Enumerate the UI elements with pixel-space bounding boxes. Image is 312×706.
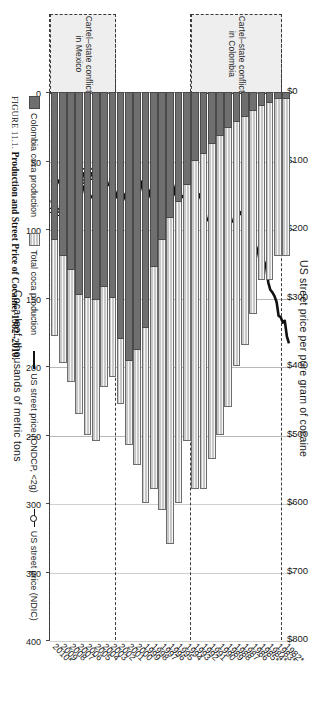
figure-rotation-stage: US street price per pure gram of cocaine… <box>0 0 312 706</box>
price-tick-label: $100 <box>287 154 308 165</box>
bar-total-coca-production <box>224 92 232 407</box>
bar-colombia-coca-production <box>109 92 117 298</box>
figure-caption-text: Production and Street Price of Cocaine, … <box>10 151 20 359</box>
bar-colombia-coca-production <box>249 92 257 111</box>
cartel-state-conflict-colombia: Cartel–state conflict in Colombia <box>191 14 282 94</box>
bar-row <box>100 92 108 640</box>
bar-colombia-coca-production <box>183 92 191 185</box>
bar-colombia-coca-production <box>241 92 249 117</box>
bar-total-coca-production <box>208 92 216 459</box>
event-label: Cartel–state conflict in Colombia <box>226 15 247 93</box>
legend-label: Total coca production <box>30 250 40 335</box>
legend-swatch-icon <box>29 233 40 246</box>
bar-colombia-coca-production <box>125 92 133 361</box>
price-tick-label: $500 <box>287 428 308 439</box>
bar-colombia-coca-production <box>282 92 290 99</box>
legend-item[interactable]: Colombia coca production <box>29 96 40 217</box>
bar-row <box>208 92 216 640</box>
bar-colombia-coca-production <box>166 92 174 218</box>
chart-legend: Colombia coca productionTotal coca produ… <box>29 96 40 637</box>
bar-row <box>258 92 266 640</box>
bar-colombia-coca-production <box>258 92 266 106</box>
bar-row <box>84 92 92 640</box>
figure-caption: FIGURE 11.1. Production and Street Price… <box>10 96 20 360</box>
legend-item[interactable]: US street price (ONDCP, <2g) <box>30 351 40 493</box>
bar-colombia-coca-production <box>59 92 67 256</box>
bar-colombia-coca-production <box>142 92 150 328</box>
bar-total-coca-production <box>241 92 249 345</box>
figure-cocaine-production-price: US street price per pure gram of cocaine… <box>0 0 312 706</box>
bar-row <box>166 92 174 640</box>
bar-total-coca-production <box>216 92 224 435</box>
bar-total-coca-production <box>249 92 257 314</box>
bar-colombia-coca-production <box>67 92 75 270</box>
bar-row <box>133 92 141 640</box>
bar-colombia-coca-production <box>75 92 83 295</box>
legend-item[interactable]: US street price (NDIC) <box>30 509 40 621</box>
bar-row <box>158 92 166 640</box>
bar-row <box>274 92 282 640</box>
price-gridline <box>50 641 290 642</box>
bar-row <box>241 92 249 640</box>
bar-colombia-coca-production <box>133 92 141 350</box>
bar-row <box>150 92 158 640</box>
bar-row <box>59 92 67 640</box>
figure-caption-number: FIGURE 11.1. <box>10 96 20 149</box>
bar-row <box>282 92 290 640</box>
legend-label: US street price (ONDCP, <2g) <box>30 373 40 493</box>
legend-item[interactable]: Total coca production <box>29 233 40 335</box>
bar-row <box>200 92 208 640</box>
bar-colombia-coca-production <box>266 92 274 103</box>
bar-colombia-coca-production <box>84 92 92 298</box>
bar-row <box>75 92 83 640</box>
price-tick-label: $700 <box>287 565 308 576</box>
bar-total-coca-production <box>266 92 274 280</box>
bar-row <box>92 92 100 640</box>
bar-colombia-coca-production <box>274 92 282 99</box>
bar-row <box>125 92 133 640</box>
bar-row <box>266 92 274 640</box>
bar-row <box>249 92 257 640</box>
legend-swatch-icon <box>30 509 39 527</box>
bar-colombia-coca-production <box>233 92 241 122</box>
bar-row <box>233 92 241 640</box>
bar-total-coca-production <box>258 92 266 280</box>
price-tick-label: $200 <box>287 222 308 233</box>
bar-row <box>183 92 191 640</box>
bar-colombia-coca-production <box>208 92 216 144</box>
bar-total-coca-production <box>233 92 241 366</box>
bar-colombia-coca-production <box>216 92 224 136</box>
legend-label: US street price (NDIC) <box>30 531 40 621</box>
bar-colombia-coca-production <box>150 92 158 267</box>
bar-row <box>191 92 199 640</box>
bar-colombia-coca-production <box>158 92 166 240</box>
bar-total-coca-production <box>282 92 290 256</box>
bar-row <box>67 92 75 640</box>
bar-colombia-coca-production <box>117 92 125 339</box>
price-tick-label: $600 <box>287 496 308 507</box>
bar-row <box>224 92 232 640</box>
legend-label: Colombia coca production <box>30 113 40 217</box>
bar-total-coca-production <box>274 92 282 256</box>
bar-colombia-coca-production <box>191 92 199 161</box>
bar-colombia-coca-production <box>200 92 208 154</box>
bar-colombia-coca-production <box>175 92 183 202</box>
bar-row <box>117 92 125 640</box>
bar-colombia-coca-production <box>92 92 100 300</box>
production-axis-tick <box>46 640 50 641</box>
bar-colombia-coca-production <box>100 92 108 287</box>
price-tick-label: $400 <box>287 359 308 370</box>
price-tick-label: $300 <box>287 291 308 302</box>
bar-row <box>216 92 224 640</box>
cartel-state-conflict-mexico: Cartel–state conflict in Mexico <box>50 14 116 94</box>
legend-swatch-icon <box>29 96 40 109</box>
legend-swatch-icon <box>34 351 36 369</box>
bar-colombia-coca-production <box>51 92 59 240</box>
production-tick-label: 400 <box>26 637 41 647</box>
event-label: Cartel–state conflict in Mexico <box>73 15 94 93</box>
bar-row <box>51 92 59 640</box>
bar-row <box>175 92 183 640</box>
bar-colombia-coca-production <box>224 92 232 128</box>
bar-row <box>109 92 117 640</box>
bar-row <box>142 92 150 640</box>
